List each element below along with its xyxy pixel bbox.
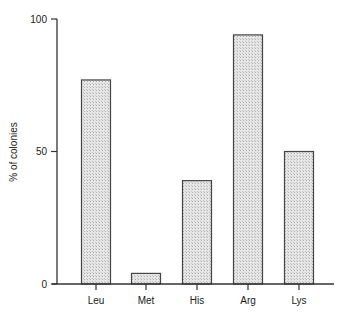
x-ticks-group: LeuMetHisArgLys — [88, 284, 307, 306]
bar-chart: 050100 LeuMetHisArgLys % of colonies — [0, 0, 340, 318]
x-tick-label-met: Met — [138, 295, 155, 306]
bar-lys — [285, 152, 314, 285]
y-axis-title: % of colonies — [8, 122, 19, 181]
bar-met — [132, 273, 161, 284]
bar-his — [183, 181, 212, 284]
bar-arg — [234, 35, 263, 284]
y-tick-label: 0 — [41, 279, 47, 290]
x-tick-label-leu: Leu — [88, 295, 105, 306]
y-tick-label: 100 — [30, 14, 47, 25]
y-ticks-group: 050100 — [30, 14, 57, 290]
x-tick-label-lys: Lys — [291, 295, 306, 306]
y-tick-label: 50 — [36, 146, 48, 157]
bar-leu — [82, 80, 111, 284]
x-tick-label-arg: Arg — [240, 295, 256, 306]
bars-group — [82, 35, 314, 284]
x-tick-label-his: His — [190, 295, 204, 306]
